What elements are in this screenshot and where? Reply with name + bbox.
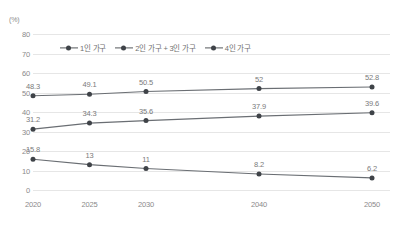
x-axis-tick-2020: 2020 [25,200,41,209]
data-label: 50.5 [139,78,153,87]
data-label: 31.2 [26,115,40,124]
data-label: 35.6 [139,107,153,116]
data-point [370,85,375,90]
data-label: 37.9 [252,102,266,111]
data-label: 13 [86,151,94,160]
data-point [144,166,149,171]
data-point [370,110,375,115]
legend-marker-icon [60,44,78,52]
data-label: 52.8 [365,73,379,82]
plot-area [0,0,401,230]
x-axis-tick-2040: 2040 [251,200,267,209]
data-point [31,127,36,132]
data-point [87,121,92,126]
data-point [370,175,375,180]
data-point [257,114,262,119]
legend-label: 1인 가구 [80,42,106,53]
data-label: 52 [255,75,263,84]
series-line-2 [33,159,372,178]
data-point [31,93,36,98]
data-label: 15.8 [26,145,40,154]
data-label: 39.6 [365,99,379,108]
household-size-projection-chart: (%) 80706050403020100 48.349.150.55252.8… [0,0,401,230]
legend-item-0[interactable]: 1인 가구 [60,42,106,53]
data-label: 34.3 [83,109,97,118]
x-axis-tick-2025: 2025 [82,200,98,209]
data-label: 48.3 [26,82,40,91]
legend-marker-icon [115,44,133,52]
legend-item-2[interactable]: 4인 가구 [205,42,251,53]
legend-item-1[interactable]: 2인 가구 + 3인 가구 [115,42,195,53]
data-label: 8.2 [254,160,264,169]
data-point [257,172,262,177]
legend-label: 2인 가구 + 3인 가구 [135,42,195,53]
chart-legend: 1인 가구2인 가구 + 3인 가구4인 가구 [60,42,251,53]
legend-marker-icon [205,44,223,52]
data-point [144,89,149,94]
data-point [87,92,92,97]
legend-label: 4인 가구 [225,42,251,53]
x-axis-tick-2030: 2030 [138,200,154,209]
data-label: 49.1 [83,80,97,89]
data-label: 6.2 [367,164,377,173]
data-point [31,157,36,162]
data-point [144,118,149,123]
data-label: 11 [142,155,149,164]
data-point [257,86,262,91]
x-axis-tick-2050: 2050 [364,200,380,209]
data-point [87,162,92,167]
